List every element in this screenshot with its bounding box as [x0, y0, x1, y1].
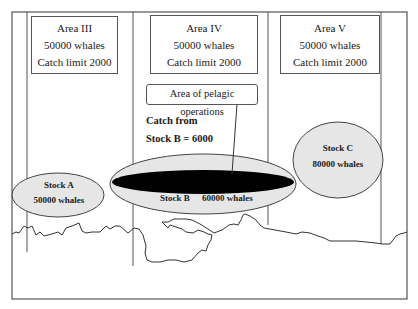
stock-name: Stock A — [24, 180, 94, 190]
stock-name: Stock B — [160, 193, 190, 203]
stock-a-label: Stock A 50000 whales — [24, 180, 94, 205]
area-name: Area IV — [151, 22, 257, 34]
stock-whales: 60000 whales — [202, 193, 253, 203]
area-catch-limit: Catch limit 2000 — [281, 56, 379, 68]
area-name: Area V — [281, 22, 379, 34]
stock-c-label: Stock C 80000 whales — [303, 143, 373, 169]
stock-whales: 80000 whales — [303, 159, 373, 169]
pelagic-operations-zone — [112, 170, 294, 194]
area-whales: 50000 whales — [281, 39, 379, 51]
area-catch-limit: Catch limit 2000 — [32, 56, 117, 68]
catch-note-line1: Catch from — [146, 115, 213, 127]
area-name: Area III — [32, 22, 117, 34]
area-iii-box: Area III 50000 whales Catch limit 2000 — [31, 16, 118, 74]
area-catch-limit: Catch limit 2000 — [151, 56, 257, 68]
stock-name: Stock C — [303, 143, 373, 153]
area-whales: 50000 whales — [32, 39, 117, 51]
stock-b-label: Stock B 60000 whales — [160, 193, 270, 203]
stock-whales: 50000 whales — [24, 195, 94, 205]
area-whales: 50000 whales — [151, 39, 257, 51]
coastline — [12, 214, 407, 262]
catch-note-line2: Stock B = 6000 — [146, 133, 213, 145]
area-iv-box: Area IV 50000 whales Catch limit 2000 — [150, 15, 258, 74]
catch-note: Catch from Stock B = 6000 — [146, 115, 213, 145]
pelagic-operations-label: Area of pelagic operations — [146, 84, 258, 105]
area-v-box: Area V 50000 whales Catch limit 2000 — [280, 15, 380, 74]
